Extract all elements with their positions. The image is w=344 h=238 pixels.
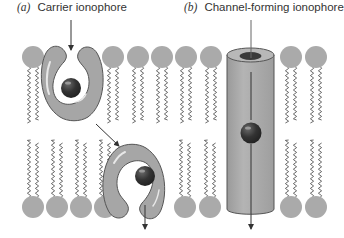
- arrow-carrier-diffuse: [96, 124, 119, 146]
- lipid-head: [46, 196, 68, 218]
- lipid-tail: [180, 66, 183, 123]
- lipid-tails-bottom: [27, 140, 321, 198]
- lipid-tail: [179, 140, 182, 198]
- lipid-head: [22, 46, 44, 68]
- lipid-tail: [59, 143, 62, 198]
- lipid-head: [22, 196, 44, 218]
- lipid-head: [280, 196, 302, 218]
- lipid-tail: [285, 66, 288, 123]
- lipid-tail: [205, 66, 208, 123]
- lipid-tail: [51, 140, 54, 198]
- lipid-head: [175, 46, 197, 68]
- lipid-head: [127, 46, 149, 68]
- lipid-head: [70, 196, 92, 218]
- carrier-ionophore-top: [41, 46, 103, 121]
- lipid-tail: [285, 140, 288, 198]
- lipid-head: [151, 46, 173, 68]
- lipid-tail: [164, 66, 167, 120]
- lipid-tail: [187, 143, 190, 198]
- lipid-tail: [27, 140, 30, 198]
- lipid-tail: [75, 140, 78, 198]
- lipid-head: [305, 196, 327, 218]
- lipid-head: [280, 46, 302, 68]
- lipid-head: [305, 46, 327, 68]
- ion-bottom-carrier: [135, 166, 155, 186]
- lipid-tail: [212, 143, 215, 198]
- lipid-tail: [204, 140, 207, 198]
- lipid-tail: [188, 66, 191, 120]
- lipid-heads: [22, 46, 327, 218]
- lipid-tail: [35, 143, 38, 198]
- lipid-tail: [213, 66, 216, 120]
- lipid-head: [102, 46, 124, 68]
- lipid-tail: [318, 66, 321, 120]
- lipid-tail: [99, 140, 102, 198]
- lipid-tail: [318, 143, 321, 198]
- lipid-tail: [310, 66, 313, 123]
- lipid-tail: [83, 143, 86, 198]
- lipid-tail: [140, 66, 143, 120]
- ion-channel: [241, 123, 262, 144]
- lipid-head: [200, 46, 222, 68]
- lipid-tail: [156, 66, 159, 123]
- carrier-ionophore-bottom: [103, 144, 165, 219]
- ion-top: [61, 78, 81, 98]
- lipid-tail: [310, 140, 313, 198]
- lipid-head: [174, 196, 196, 218]
- lipid-tail: [293, 66, 296, 120]
- lipid-tail: [27, 66, 30, 123]
- lipid-tail: [132, 66, 135, 123]
- lipid-tail: [35, 66, 38, 120]
- lipid-head: [199, 196, 221, 218]
- lipid-tail: [107, 66, 110, 123]
- lipid-tail: [115, 66, 118, 120]
- lipid-tail: [293, 143, 296, 198]
